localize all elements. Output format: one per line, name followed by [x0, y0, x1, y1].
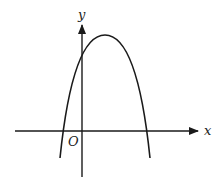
y-axis-label: y: [77, 7, 86, 22]
origin-label: O: [68, 134, 79, 149]
graph-canvas: y x O: [0, 0, 222, 186]
x-axis-label: x: [204, 123, 212, 138]
